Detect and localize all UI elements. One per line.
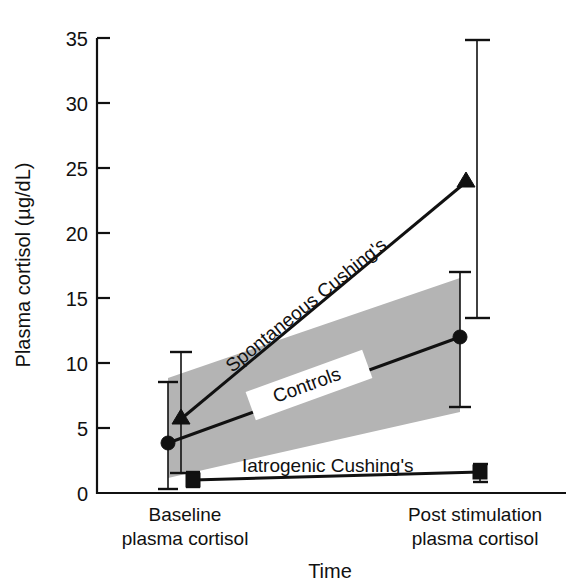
y-tick-label-20: 20 [66, 223, 88, 245]
y-tick-label-5: 5 [77, 418, 88, 440]
marker-spontaneous-post [457, 172, 475, 187]
x-category-label-post-line2: plasma cortisol [412, 528, 539, 549]
chart-container: 35 30 25 20 15 10 5 0 Plasma cortisol (µ… [0, 0, 571, 585]
marker-controls-baseline [161, 436, 175, 450]
annotation-iatrogenic-cushings: Iatrogenic Cushing's [242, 455, 414, 476]
marker-controls-post [453, 330, 467, 344]
y-tick-label-0: 0 [77, 483, 88, 505]
y-tick-label-10: 10 [66, 353, 88, 375]
y-axis-ticks [97, 38, 110, 428]
y-tick-label-30: 30 [66, 93, 88, 115]
marker-iatrogenic-baseline [186, 473, 200, 487]
y-axis-title: Plasma cortisol (µg/dL) [12, 163, 34, 368]
y-tick-label-25: 25 [66, 158, 88, 180]
x-axis-title: Time [308, 560, 352, 582]
x-category-label-post-line1: Post stimulation [408, 504, 542, 525]
x-category-label-baseline-line2: plasma cortisol [122, 528, 249, 549]
y-tick-label-35: 35 [66, 28, 88, 50]
y-tick-label-15: 15 [66, 288, 88, 310]
plasma-cortisol-chart: 35 30 25 20 15 10 5 0 Plasma cortisol (µ… [0, 0, 571, 585]
x-category-label-baseline-line1: Baseline [149, 504, 222, 525]
marker-iatrogenic-post [473, 465, 487, 479]
